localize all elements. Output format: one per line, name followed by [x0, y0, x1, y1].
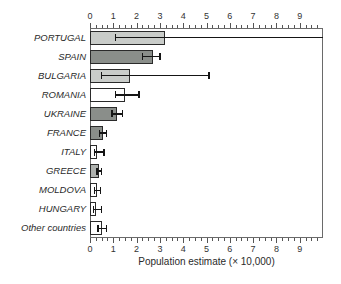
minor-tick	[311, 238, 312, 241]
error-bar-spain	[142, 56, 159, 58]
minor-tick	[148, 25, 149, 28]
minor-tick	[125, 25, 126, 28]
minor-tick	[247, 238, 248, 241]
error-bar-cap	[94, 187, 96, 194]
category-label-bulgaria: BULGARIA	[0, 70, 86, 82]
error-bar-cap	[122, 110, 124, 117]
error-bar-cap	[103, 149, 105, 156]
error-bar-cap	[94, 149, 96, 156]
minor-tick	[154, 238, 155, 241]
minor-tick	[294, 238, 295, 241]
major-tick	[137, 238, 138, 243]
x-tick-label-bottom: 5	[204, 244, 209, 254]
major-tick	[113, 23, 114, 28]
minor-tick	[119, 238, 120, 241]
error-bar-cap	[138, 91, 140, 98]
x-tick-label-bottom: 7	[251, 244, 256, 254]
category-label-ukraine: UKRAINE	[0, 108, 86, 120]
x-tick-label-bottom: 8	[274, 244, 279, 254]
minor-tick	[212, 238, 213, 241]
minor-tick	[201, 238, 202, 241]
x-tick-label-bottom: 9	[297, 244, 302, 254]
minor-tick	[288, 25, 289, 28]
x-tick-label-top: 3	[157, 11, 162, 21]
minor-tick	[107, 25, 108, 28]
category-label-italy: ITALY	[0, 146, 86, 158]
minor-tick	[172, 25, 173, 28]
error-bar-cap	[208, 72, 210, 79]
error-bar-cap	[96, 168, 98, 175]
error-bar-cap	[101, 72, 103, 79]
error-bar-bulgaria	[102, 75, 209, 77]
x-axis-title: Population estimate (× 10,000)	[90, 256, 323, 267]
x-tick-label-bottom: 1	[111, 244, 116, 254]
minor-tick	[271, 25, 272, 28]
minor-tick	[166, 25, 167, 28]
minor-tick	[125, 238, 126, 241]
category-label-greece: GREECE	[0, 165, 86, 177]
major-tick	[253, 238, 254, 243]
x-tick-label-bottom: 3	[157, 244, 162, 254]
minor-tick	[142, 238, 143, 241]
error-bar-cap	[101, 206, 103, 213]
x-tick-label-top: 4	[181, 11, 186, 21]
x-tick-label-top: 8	[274, 11, 279, 21]
population-bar-chart: Population estimate (× 10,000) 001122334…	[0, 0, 341, 284]
x-tick-label-top: 1	[111, 11, 116, 21]
minor-tick	[195, 25, 196, 28]
error-bar-cap	[97, 225, 99, 232]
error-bar-cap	[115, 91, 117, 98]
minor-tick	[224, 238, 225, 241]
minor-tick	[236, 238, 237, 241]
x-tick-label-bottom: 2	[134, 244, 139, 254]
major-tick	[276, 23, 277, 28]
error-bar-cap	[106, 130, 108, 137]
minor-tick	[189, 25, 190, 28]
minor-tick	[102, 25, 103, 28]
category-label-france: FRANCE	[0, 127, 86, 139]
minor-tick	[241, 25, 242, 28]
major-tick	[230, 23, 231, 28]
major-tick	[160, 23, 161, 28]
major-tick	[300, 238, 301, 243]
category-label-portugal: PORTUGAL	[0, 32, 86, 44]
minor-tick	[172, 238, 173, 241]
minor-tick	[306, 238, 307, 241]
error-bar-cap	[115, 34, 117, 41]
x-tick-label-top: 0	[87, 11, 92, 21]
minor-tick	[241, 238, 242, 241]
minor-tick	[131, 238, 132, 241]
minor-tick	[166, 238, 167, 241]
minor-tick	[218, 25, 219, 28]
major-tick	[207, 238, 208, 243]
major-tick	[90, 23, 91, 28]
minor-tick	[294, 25, 295, 28]
minor-tick	[282, 238, 283, 241]
error-bar-cap	[99, 130, 101, 137]
minor-tick	[142, 25, 143, 28]
major-tick	[230, 238, 231, 243]
minor-tick	[317, 25, 318, 28]
minor-tick	[212, 25, 213, 28]
minor-tick	[195, 238, 196, 241]
minor-tick	[189, 238, 190, 241]
major-tick	[207, 23, 208, 28]
minor-tick	[218, 238, 219, 241]
minor-tick	[154, 25, 155, 28]
error-bar-romania	[116, 94, 139, 96]
minor-tick	[271, 238, 272, 241]
minor-tick	[282, 25, 283, 28]
minor-tick	[107, 238, 108, 241]
major-tick	[300, 23, 301, 28]
major-tick	[90, 238, 91, 243]
major-tick	[276, 238, 277, 243]
minor-tick	[288, 238, 289, 241]
major-tick	[160, 238, 161, 243]
category-label-moldova: MOLDOVA	[0, 184, 86, 196]
minor-tick	[236, 25, 237, 28]
minor-tick	[148, 238, 149, 241]
major-tick	[113, 238, 114, 243]
category-label-romania: ROMANIA	[0, 89, 86, 101]
error-bar-cap	[106, 225, 108, 232]
minor-tick	[177, 238, 178, 241]
